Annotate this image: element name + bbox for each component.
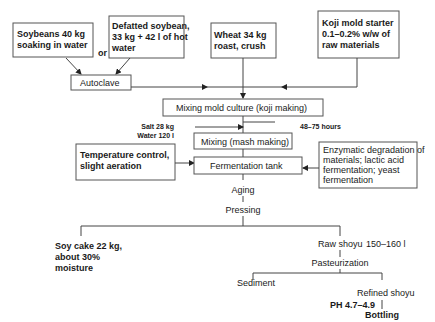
raw-shoyu-volume: 150–160 l [366, 239, 406, 249]
or-label: or [98, 48, 107, 58]
salt-label: Salt 28 kg [141, 123, 174, 131]
mash-making-label: Mixing (mash making) [201, 137, 289, 147]
pasteurization-label: Pasteurization [311, 258, 368, 268]
enzymatic-line2: materials; lactic acid [323, 155, 404, 165]
autoclave-node: Autoclave [71, 75, 131, 90]
defatted-line2: 33 kg + 42 l of hot [112, 32, 188, 42]
fermentation-tank-label: Fermentation tank [210, 161, 283, 171]
ph-label: PH 4.7–4.9 [330, 300, 375, 310]
koji-making-label: Mixing mold culture (koji making) [176, 103, 307, 113]
koji-making-node: Mixing mold culture (koji making) [163, 99, 323, 116]
enzymatic-line4: fermentation [323, 175, 373, 185]
defatted-line3: water [111, 43, 136, 53]
wheat-line2: roast, crush [214, 41, 266, 51]
enzymatic-line3: fermentation; yeast [323, 165, 400, 175]
pressing-label: Pressing [225, 205, 260, 215]
koji-starter-line3: raw materials [322, 40, 380, 50]
soy-cake-line3: moisture [55, 263, 93, 273]
soybeans-node: Soybeans 40 kg soaking in water [13, 23, 93, 57]
fermentation-tank-node: Fermentation tank [194, 157, 302, 174]
koji-starter-line2: 0.1–0.2% w/w of [322, 29, 391, 39]
defatted-line1: Defatted soybean, [112, 21, 190, 31]
arrow-defatted-autoclave [116, 58, 130, 74]
koji-starter-line1: Koji mold starter [322, 18, 394, 28]
refined-shoyu-label: Refined shoyu [357, 288, 415, 298]
koji-starter-node: Koji mold starter 0.1–0.2% w/w of raw ma… [318, 11, 399, 58]
soybeans-line2: soaking in water [17, 40, 88, 50]
wheat-line1: Wheat 34 kg [214, 30, 267, 40]
water-label: Water 120 l [137, 132, 174, 139]
wheat-node: Wheat 34 kg roast, crush [211, 23, 276, 58]
soy-cake-node: Soy cake 22 kg, about 30% moisture [55, 241, 122, 273]
bottling-label: Bottling [365, 310, 399, 320]
raw-shoyu-label: Raw shoyu [318, 239, 363, 249]
autoclave-label: Autoclave [80, 78, 120, 88]
temperature-control-node: Temperature control, slight aeration [76, 144, 175, 180]
soybeans-line1: Soybeans 40 kg [17, 29, 85, 39]
arrow-soybeans-autoclave [66, 58, 81, 74]
duration-label: 48–75 hours [300, 123, 341, 130]
aging-label: Aging [231, 185, 254, 195]
defatted-soybean-node: Defatted soybean, 33 kg + 42 l of hot wa… [109, 16, 190, 58]
mash-making-node: Mixing (mash making) [194, 133, 292, 149]
shoyu-process-diagram: Soybeans 40 kg soaking in water or Defat… [0, 0, 435, 322]
enzymatic-node: Enzymatic degradation of materials; lact… [319, 142, 425, 188]
temperature-line1: Temperature control, [80, 150, 169, 160]
enzymatic-line1: Enzymatic degradation of [323, 145, 425, 155]
temperature-line2: slight aeration [80, 161, 142, 171]
soy-cake-line1: Soy cake 22 kg, [55, 241, 122, 251]
sediment-label: Sediment [237, 278, 276, 288]
soy-cake-line2: about 30% [55, 252, 100, 262]
